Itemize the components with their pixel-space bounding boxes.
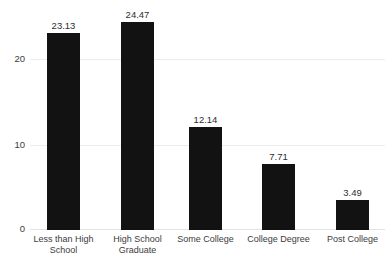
bar-value-label: 24.47 (126, 10, 150, 20)
bars-layer: 23.13 24.47 12.14 7.71 3.49 (30, 8, 385, 230)
bar-value-label: 23.13 (52, 21, 76, 31)
plot-area: 20 10 0 23.13 24.47 12.14 7.71 (30, 8, 385, 230)
x-axis-tick-label: Post College (313, 234, 392, 245)
bar-value-label: 12.14 (194, 115, 218, 125)
bar-chart: 20 10 0 23.13 24.47 12.14 7.71 (0, 0, 392, 264)
bar-group[interactable]: 24.47 (121, 22, 154, 230)
y-axis-tick-label-0: 0 (20, 224, 25, 234)
bar-rect[interactable] (336, 200, 369, 230)
bar-rect[interactable] (262, 164, 295, 230)
x-axis-tick-label: High School Graduate (105, 234, 170, 256)
x-axis-tick-label: Less than High School (27, 234, 100, 256)
x-axis-labels: Less than High School High School Gradua… (30, 234, 385, 264)
bar-rect[interactable] (121, 22, 154, 230)
bar-rect[interactable] (47, 33, 80, 230)
bar-group[interactable]: 3.49 (336, 200, 369, 230)
bar-value-label: 7.71 (269, 152, 288, 162)
bar-group[interactable]: 7.71 (262, 164, 295, 230)
bar-group[interactable]: 23.13 (47, 33, 80, 230)
y-axis-tick-label-20: 20 (14, 54, 25, 64)
x-axis-tick-label: Some College (165, 234, 246, 245)
bar-group[interactable]: 12.14 (189, 127, 222, 230)
y-axis-tick-label-10: 10 (14, 140, 25, 150)
bar-value-label: 3.49 (343, 188, 362, 198)
x-axis-tick-label: College Degree (237, 234, 320, 245)
bar-rect[interactable] (189, 127, 222, 230)
